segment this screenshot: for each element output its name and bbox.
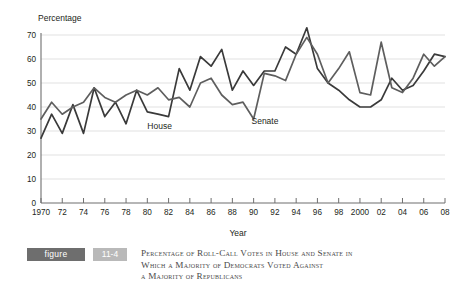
x-tick-label: 82 — [164, 208, 174, 217]
series-annotations-group: HouseSenate — [147, 116, 278, 131]
caption-line-1: Percentage of Roll-Call Votes in House a… — [141, 248, 447, 260]
x-tick-label: 98 — [334, 208, 344, 217]
x-tick-label: 04 — [398, 208, 408, 217]
y-tick-label: 70 — [27, 31, 37, 40]
x-tick-label: 74 — [79, 208, 89, 217]
x-tick-label: 08 — [440, 208, 450, 217]
y-tick-label: 40 — [27, 103, 37, 112]
y-tick-label: 0 — [31, 199, 36, 208]
x-tick-label: 84 — [185, 208, 195, 217]
x-tick-label: 76 — [100, 208, 110, 217]
y-axis-title: Percentage — [38, 13, 82, 23]
x-tick-label: 86 — [207, 208, 217, 217]
figure-number-badge: 11-4 — [93, 248, 127, 261]
x-tick-label: 78 — [121, 208, 131, 217]
x-tick-label: 72 — [58, 208, 68, 217]
x-tick-label: 1970 — [32, 208, 51, 217]
x-tick-label: 80 — [143, 208, 153, 217]
x-axis-title: Year — [229, 228, 246, 238]
figure-caption-text: Percentage of Roll-Call Votes in House a… — [141, 248, 447, 283]
x-tick-label: 92 — [270, 208, 280, 217]
x-tick-label: 2000 — [351, 208, 370, 217]
x-tick-labels-group: 1970727476788082848688909294969820000204… — [32, 208, 450, 217]
x-tick-label: 94 — [292, 208, 302, 217]
figure-badge: figure — [27, 248, 85, 261]
y-tick-label: 10 — [27, 175, 37, 184]
series-annotation-house: House — [147, 121, 172, 131]
series-annotation-senate: Senate — [252, 116, 279, 126]
x-tick-label: 02 — [377, 208, 387, 217]
y-tick-labels-group: 010203040506070 — [27, 31, 37, 208]
x-tick-label: 88 — [228, 208, 238, 217]
y-tick-label: 30 — [27, 127, 37, 136]
figure-caption: figure 11-4 Percentage of Roll-Call Vote… — [27, 248, 447, 283]
x-tick-label: 06 — [419, 208, 429, 217]
caption-line-2: Which a Majority of Democrats Voted Agai… — [141, 260, 447, 272]
y-tick-label: 20 — [27, 151, 37, 160]
x-tick-label: 96 — [313, 208, 323, 217]
y-tick-label: 60 — [27, 55, 37, 64]
y-tick-label: 50 — [27, 79, 37, 88]
x-tick-marks-group — [41, 198, 445, 203]
caption-line-3: a Majority of Republicans — [141, 271, 447, 283]
x-tick-label: 90 — [249, 208, 259, 217]
